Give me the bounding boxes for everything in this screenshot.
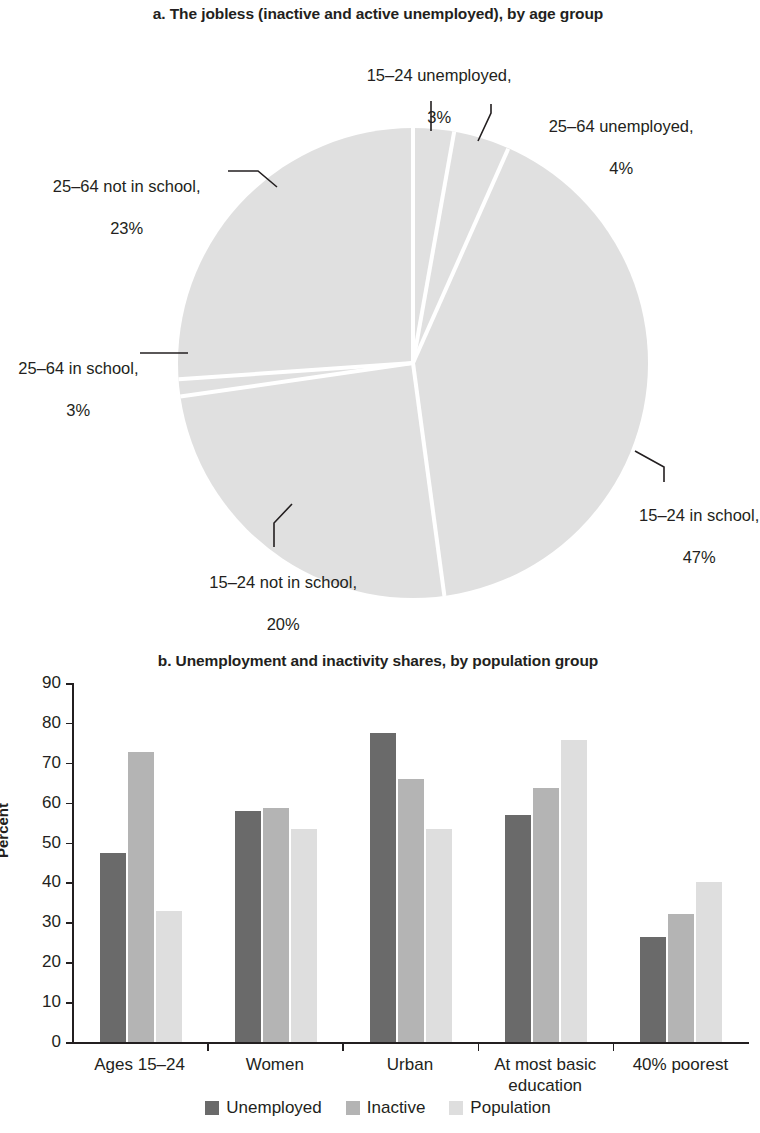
bar-unemployed-4 bbox=[640, 937, 666, 1042]
bar-unemployed-0 bbox=[100, 853, 126, 1042]
bar-group-2 bbox=[343, 683, 478, 1042]
y-tick-10 bbox=[66, 1002, 73, 1004]
bar-unemployed-3 bbox=[505, 815, 531, 1042]
x-axis-label-2: Urban bbox=[342, 1054, 477, 1075]
legend-item-inactive[interactable]: Inactive bbox=[346, 1098, 426, 1118]
bar-population-2 bbox=[426, 829, 452, 1042]
pie-label-15-24-in-school-name: 15–24 in school, bbox=[639, 506, 759, 524]
legend-label-population: Population bbox=[470, 1098, 550, 1118]
y-tick-90 bbox=[66, 683, 73, 685]
y-tick-label-70: 70 bbox=[42, 753, 61, 773]
bar-unemployed-2 bbox=[370, 733, 396, 1042]
y-tick-0 bbox=[66, 1042, 73, 1044]
pie-label-25-64-in-school-name: 25–64 in school, bbox=[18, 359, 138, 377]
x-axis-separator-3 bbox=[478, 1042, 480, 1051]
y-tick-label-20: 20 bbox=[42, 952, 61, 972]
pie-label-25-64-unemployed-value: 4% bbox=[609, 159, 633, 177]
x-axis-label-4: 40% poorest bbox=[613, 1054, 748, 1075]
bar-population-4 bbox=[696, 882, 722, 1042]
x-axis-separator-4 bbox=[613, 1042, 615, 1051]
pie-label-25-64-in-school-value: 3% bbox=[66, 401, 90, 419]
pie-label-25-64-not-in-school: 25–64 not in school, 23% bbox=[10, 155, 225, 261]
y-tick-80 bbox=[66, 723, 73, 725]
y-tick-label-90: 90 bbox=[42, 673, 61, 693]
bar-population-0 bbox=[156, 911, 182, 1042]
pie-label-25-64-unemployed-name: 25–64 unemployed, bbox=[549, 117, 694, 135]
legend-swatch-unemployed bbox=[205, 1101, 219, 1115]
y-tick-60 bbox=[66, 803, 73, 805]
x-axis-label-0: Ages 15–24 bbox=[72, 1054, 207, 1075]
pie-label-15-24-unemployed-value: 3% bbox=[427, 108, 451, 126]
y-tick-30 bbox=[66, 922, 73, 924]
bar-inactive-2 bbox=[398, 779, 424, 1042]
legend-swatch-inactive bbox=[346, 1101, 360, 1115]
y-tick-label-30: 30 bbox=[42, 912, 61, 932]
pie-label-25-64-not-in-school-name: 25–64 not in school, bbox=[53, 177, 201, 195]
y-tick-label-0: 0 bbox=[52, 1032, 61, 1052]
x-axis-separator-1 bbox=[207, 1042, 209, 1051]
y-tick-label-50: 50 bbox=[42, 833, 61, 853]
y-tick-label-40: 40 bbox=[42, 872, 61, 892]
legend-item-population[interactable]: Population bbox=[449, 1098, 550, 1118]
bar-group-1 bbox=[208, 683, 343, 1042]
pie-label-15-24-not-in-school-name: 15–24 not in school, bbox=[209, 573, 357, 591]
bar-chart-legend: UnemployedInactivePopulation bbox=[0, 1098, 756, 1118]
y-tick-40 bbox=[66, 882, 73, 884]
pie-label-25-64-not-in-school-value: 23% bbox=[110, 219, 143, 237]
pie-label-15-24-in-school: 15–24 in school, 47% bbox=[620, 484, 760, 590]
y-axis-title: Percent bbox=[0, 803, 11, 858]
bar-unemployed-1 bbox=[235, 811, 261, 1042]
panel-b-bar-chart: b. Unemployment and inactivity shares, b… bbox=[0, 630, 756, 1133]
pie-label-15-24-unemployed-name: 15–24 unemployed, bbox=[367, 66, 512, 84]
bar-inactive-4 bbox=[668, 914, 694, 1042]
legend-swatch-population bbox=[449, 1101, 463, 1115]
bar-population-1 bbox=[291, 829, 317, 1042]
y-tick-label-80: 80 bbox=[42, 713, 61, 733]
bar-plot-area: 0102030405060708090 bbox=[73, 683, 749, 1042]
pie-label-25-64-in-school: 25–64 in school, 3% bbox=[0, 337, 138, 443]
bar-inactive-0 bbox=[128, 752, 154, 1042]
bar-group-3 bbox=[479, 683, 614, 1042]
leader-15-24-in-school bbox=[635, 451, 664, 482]
x-axis-line bbox=[72, 1042, 749, 1044]
leader-15-24-not-in-school bbox=[274, 504, 292, 547]
panel-a-pie-chart: a. The jobless (inactive and active unem… bbox=[0, 0, 756, 630]
x-axis-label-3: At most basiceducation bbox=[478, 1054, 613, 1097]
pie-label-25-64-unemployed: 25–64 unemployed, 4% bbox=[497, 95, 727, 201]
legend-label-unemployed: Unemployed bbox=[226, 1098, 321, 1118]
pie-label-15-24-in-school-value: 47% bbox=[683, 548, 716, 566]
bar-inactive-1 bbox=[263, 808, 289, 1042]
y-tick-70 bbox=[66, 763, 73, 765]
y-tick-50 bbox=[66, 843, 73, 845]
y-tick-label-10: 10 bbox=[42, 992, 61, 1012]
bar-group-4 bbox=[614, 683, 749, 1042]
x-axis-separator-2 bbox=[342, 1042, 344, 1051]
legend-item-unemployed[interactable]: Unemployed bbox=[205, 1098, 321, 1118]
panel-b-title: b. Unemployment and inactivity shares, b… bbox=[0, 652, 756, 670]
y-tick-label-60: 60 bbox=[42, 793, 61, 813]
bar-inactive-3 bbox=[533, 788, 559, 1042]
y-tick-20 bbox=[66, 962, 73, 964]
bar-population-3 bbox=[561, 740, 587, 1042]
bar-group-0 bbox=[73, 683, 208, 1042]
legend-label-inactive: Inactive bbox=[367, 1098, 426, 1118]
leader-25-64-not-in-school bbox=[228, 171, 277, 187]
x-axis-label-1: Women bbox=[207, 1054, 342, 1075]
